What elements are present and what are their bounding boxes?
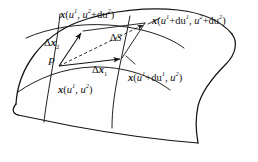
vector-arrow-delta-x1 xyxy=(59,59,120,66)
label-area-symbol: S xyxy=(116,32,121,43)
label-subscript: 1 xyxy=(104,70,107,77)
label-arg1-increment: +du xyxy=(145,72,161,83)
label-arg2-increment: +du xyxy=(203,15,219,26)
label-x-u1-u2-plus-du2: x(u1, u2+du2) xyxy=(60,8,114,20)
label-delta-symbol: Δ xyxy=(92,64,99,75)
label-subscript: 2 xyxy=(56,43,59,50)
label-x-u1-plus-du1-u2-plus-du2: x(u1+du1, u2+du2) xyxy=(152,14,226,26)
surface-edge-bottom xyxy=(18,115,198,143)
label-delta-S: ΔS xyxy=(110,33,121,43)
label-paren-close: ) xyxy=(179,72,183,83)
label-paren-close: ) xyxy=(111,9,115,20)
leader-right xyxy=(126,56,135,64)
label-arg1-increment: +du xyxy=(169,15,185,26)
label-delta-x-1: Δx1 xyxy=(92,65,107,78)
label-arg2-increment: +du xyxy=(91,9,107,20)
coordinate-curve-u1-left xyxy=(44,14,60,122)
label-x-u1-u2: x(u1, u2) xyxy=(58,83,93,95)
surface-outline xyxy=(13,9,235,143)
surface-element-diagram: x(u1, u2+du2) x(u1+du1, u2+du2) x(u1+du1… xyxy=(0,0,258,162)
surface-edge-right xyxy=(196,34,235,143)
label-x-u1-plus-du1-u2: x(u1+du1, u2) xyxy=(128,71,182,83)
label-point-symbol: P xyxy=(48,55,55,67)
label-paren-close: ) xyxy=(222,15,226,26)
surface-edge-left xyxy=(13,104,18,115)
label-delta-symbol: Δ xyxy=(44,37,51,48)
label-point-P: P xyxy=(48,56,55,67)
label-paren-close: ) xyxy=(89,84,93,95)
label-delta-x-2: Δx2 xyxy=(44,38,59,51)
